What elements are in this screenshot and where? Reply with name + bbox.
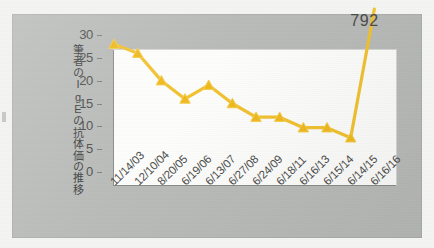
chart-panel: 筆者のIgEの抗体価の推移 302520151050 11/14/0312/10… [12,14,422,238]
data-point-marker [109,39,119,48]
page-edge-mark [2,112,6,122]
data-series [12,14,422,238]
peak-value-annotation: 792 [350,12,378,30]
data-point-marker [203,80,213,89]
series-line [114,9,374,138]
scanned-figure: 筆者のIgEの抗体価の推移 302520151050 11/14/0312/10… [0,0,434,248]
